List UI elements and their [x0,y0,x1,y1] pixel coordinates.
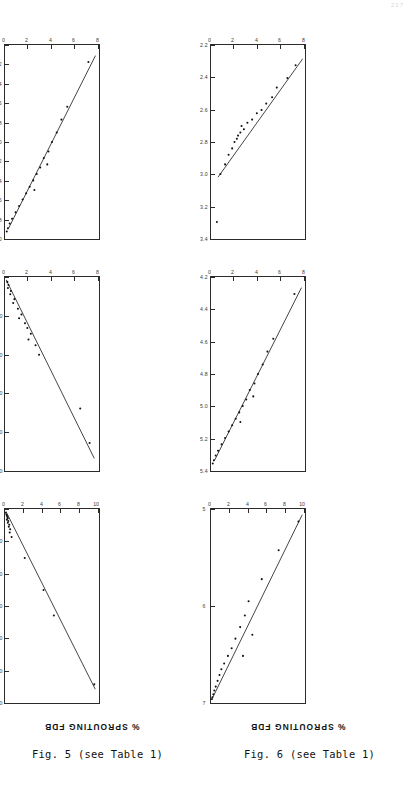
xaxis-tick-label: 400 [0,635,3,641]
data-point [260,109,262,111]
xaxis-tick-label: 600 [0,700,3,706]
data-point [10,290,12,292]
yaxis-tick-label: 6 [265,501,268,507]
xaxis-tick-label: 400 [0,429,3,435]
yaxis-tick [28,45,29,49]
data-point [7,520,9,522]
data-point [251,119,253,121]
data-point [231,147,233,149]
xaxis-tick [5,45,9,46]
xaxis-tick-label: 5.2 [200,436,208,442]
yaxis-tick-label: 8 [283,501,286,507]
xaxis-tick-label: 4.6 [200,339,208,345]
plot-frame: 0100200300400500 02468 [4,276,100,472]
yaxis-tick-label: 2 [26,269,29,275]
data-point [236,138,238,140]
data-point [33,189,35,191]
xaxis-tick-label: 5.0 [200,403,208,409]
xaxis-tick [5,220,9,221]
xaxis-tick-label: 1.2 [0,158,2,164]
data-point [25,192,27,194]
xaxis-tick-label: 0.2 [0,61,2,67]
data-point [7,287,9,289]
yaxis-tick [4,277,5,281]
yaxis-tick-label: 4 [255,37,258,43]
yaxis-tick-label: 8 [96,37,99,43]
yaxis-tick [51,277,52,281]
regression-line [213,515,302,697]
data-point [47,151,49,153]
data-point [24,322,26,324]
xaxis-tick [211,77,215,78]
yaxis-tick [257,45,258,49]
data-point [223,663,225,665]
data-point [257,373,259,375]
data-point [239,421,241,423]
data-point [8,524,10,526]
yaxis-tick [98,509,99,513]
figure-yaxis-title: % SPROUTING FDB [44,722,140,732]
yaxis-tick [281,45,282,49]
xaxis-tick [5,200,9,201]
data-point [20,313,22,315]
xaxis-tick-label: 100 [0,313,3,319]
xaxis-tick-label: 3.2 [200,204,208,210]
data-point [212,693,214,695]
plot-surface [211,509,305,703]
data-point [238,411,240,413]
data-point [261,578,263,580]
yaxis-tick [210,277,211,281]
data-point [276,87,278,89]
yaxis-tick [75,277,76,281]
data-point [215,455,217,457]
xaxis-tick-label: 2.4 [200,74,208,80]
data-point [252,395,254,397]
yaxis-tick-label: 4 [246,501,249,507]
xaxis-tick-label: 1.6 [0,197,2,203]
data-point [246,122,248,124]
data-point [216,221,218,223]
data-point [211,698,213,700]
yaxis-tick-label: 4 [40,501,43,507]
data-point [213,689,215,691]
xaxis-tick [5,606,9,607]
data-point [43,157,45,159]
yaxis-tick-label: 0 [2,501,5,507]
data-point [272,338,274,340]
figure-caption: Fig. 6 (see Table 1) [244,748,375,760]
data-point [239,626,241,628]
yaxis-tick [257,277,258,281]
data-point [234,638,236,640]
xaxis-tick [5,64,9,65]
xaxis-tick-label: 3.4 [200,236,208,242]
yaxis-tick [23,509,24,513]
yaxis-tick-label: 6 [59,501,62,507]
xaxis-tick-label: 4.8 [200,371,208,377]
xaxis-tick-label: 200 [0,571,3,577]
data-point [220,668,222,670]
xaxis-tick [5,142,9,143]
xaxis-tick-label: 1.4 [0,178,2,184]
yaxis-tick [248,509,249,513]
data-point [244,615,246,617]
xaxis-tick [5,181,9,182]
data-point [43,589,45,591]
yaxis-tick-label: 0 [208,269,211,275]
panel-fig5-rye: RYE r = 0.967 α − AMYLASE ACTIVITY 01002… [14,256,192,486]
plot-frame: 4.24.44.64.85.05.25.4 02468 [210,276,306,472]
data-point [248,600,250,602]
data-point [11,536,13,538]
data-point [241,125,243,127]
data-point [212,463,214,465]
data-point [9,528,11,530]
yaxis-tick-label: 6 [73,269,76,275]
xaxis-tick [5,355,9,356]
yaxis-tick [51,45,52,49]
yaxis-tick-label: 0 [208,37,211,43]
data-point [249,389,251,391]
yaxis-tick-label: 2 [21,501,24,507]
yaxis-tick [285,509,286,513]
data-point [293,293,295,295]
xaxis-tick-label: 0.8 [0,120,2,126]
yaxis-tick-label: 0 [2,269,5,275]
